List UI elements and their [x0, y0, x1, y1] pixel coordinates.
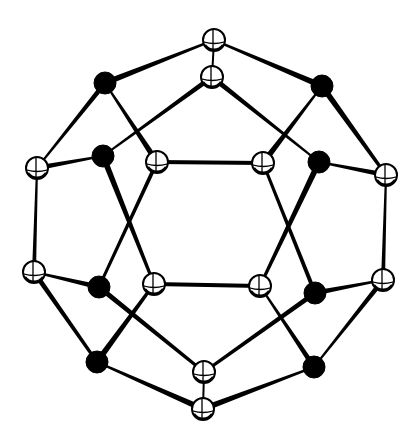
filled-atom-B4 [308, 151, 330, 173]
open-atom-A3 [146, 151, 168, 173]
molecular-cage-diagram [0, 0, 417, 441]
bond-B6-A7 [203, 291, 316, 373]
bond-A5-A6 [154, 282, 260, 288]
bond-A3-A4 [157, 160, 263, 165]
filled-atom-B1 [94, 72, 116, 94]
filled-atom-B7 [86, 351, 108, 373]
open-atom-A8 [192, 398, 214, 420]
bond-B7-A8 [97, 361, 205, 412]
bond-A1-B2 [214, 39, 324, 89]
open-atom-A5 [143, 273, 165, 295]
open-atom-C4 [372, 269, 394, 291]
bond-A2-B3 [102, 75, 213, 157]
bond-A2-B4 [210, 75, 319, 163]
filled-atom-B5 [88, 276, 110, 298]
open-atom-A7 [193, 361, 215, 383]
bond-layer [32, 39, 387, 412]
open-atom-C2 [375, 164, 397, 186]
filled-atom-B3 [92, 145, 114, 167]
open-atom-C3 [23, 261, 45, 283]
open-atom-A2 [201, 66, 223, 88]
atom-layer [23, 29, 397, 420]
bond-A1-B1 [104, 39, 214, 86]
open-atom-C1 [26, 157, 48, 179]
filled-atom-B2 [311, 75, 333, 97]
filled-atom-B8 [303, 356, 325, 378]
bond-C2-C4 [381, 175, 387, 280]
filled-atom-B6 [304, 282, 326, 304]
open-atom-A6 [249, 275, 271, 297]
bond-C1-C3 [32, 168, 38, 272]
open-atom-A4 [252, 152, 274, 174]
open-atom-A1 [203, 29, 225, 51]
bond-B8-A8 [202, 366, 315, 412]
cage-structure-svg [0, 0, 417, 441]
bond-B5-A7 [97, 285, 204, 373]
